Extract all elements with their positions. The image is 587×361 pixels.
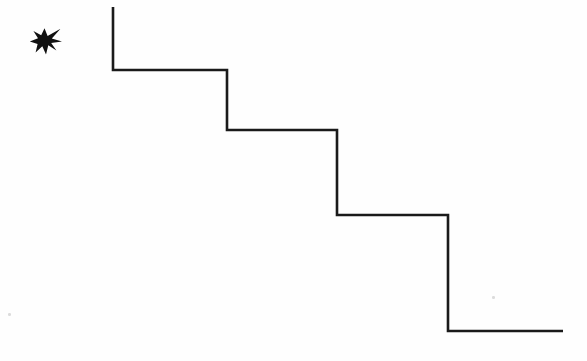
scan-speck-left [8, 313, 11, 316]
staircase-figure [0, 0, 587, 361]
figure-background [0, 0, 587, 361]
figure-canvas [0, 0, 587, 361]
scan-speck-right [492, 296, 495, 299]
